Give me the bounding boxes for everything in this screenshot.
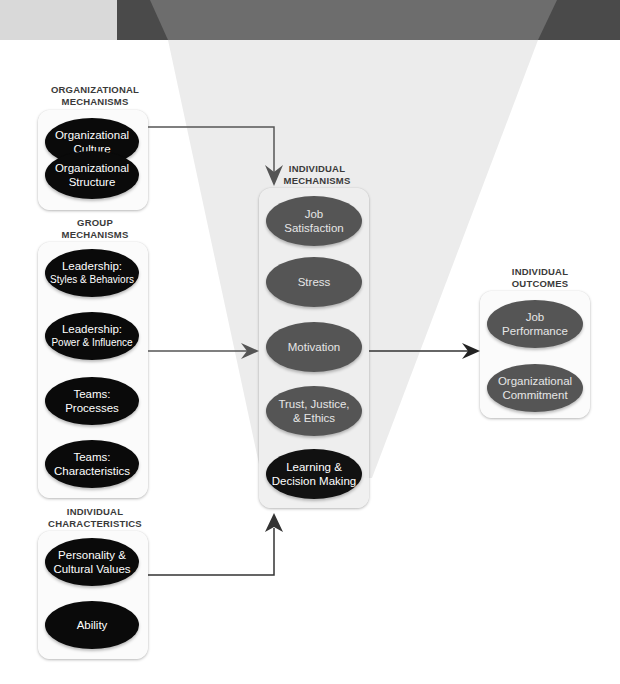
arrow-group-to-individual-mechanisms [148, 343, 259, 359]
arrow-org-to-individual-mechanisms [148, 127, 283, 186]
connector-arrows [0, 0, 620, 684]
arrow-mechanisms-to-outcomes [369, 343, 480, 359]
arrow-characteristics-to-individual-mechanisms [148, 513, 283, 575]
